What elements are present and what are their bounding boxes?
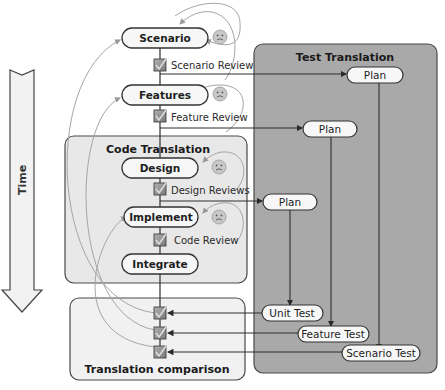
- stage-scenario[interactable]: Scenario: [122, 28, 208, 48]
- process-diagram: Test Translation Code Translation Transl…: [0, 0, 445, 390]
- code-translation-title: Code Translation: [106, 143, 210, 156]
- review-scenario: Scenario Review: [154, 59, 253, 71]
- stage-design[interactable]: Design: [122, 158, 198, 178]
- scenario-test[interactable]: Scenario Test: [342, 345, 420, 361]
- svg-text:Design: Design: [140, 162, 181, 174]
- compare-feature: [154, 327, 166, 339]
- svg-text:Scenario: Scenario: [139, 32, 190, 44]
- sad-face-icon: [212, 160, 226, 174]
- stage-implement[interactable]: Implement: [124, 207, 198, 227]
- plan-scenario[interactable]: Plan: [347, 67, 403, 83]
- svg-text:Scenario Test: Scenario Test: [346, 347, 416, 359]
- svg-text:Feature Review: Feature Review: [171, 112, 248, 123]
- sad-face-icon: [212, 210, 226, 224]
- svg-text:Code Review: Code Review: [174, 235, 238, 246]
- svg-text:Unit Test: Unit Test: [269, 307, 314, 319]
- svg-text:Plan: Plan: [364, 69, 386, 81]
- review-features: Feature Review: [154, 110, 248, 123]
- sad-face-icon: [213, 30, 227, 44]
- feature-test[interactable]: Feature Test: [298, 326, 369, 342]
- svg-text:Plan: Plan: [319, 123, 341, 135]
- stage-features[interactable]: Features: [122, 85, 208, 105]
- time-arrow: Time: [2, 70, 42, 312]
- unit-test[interactable]: Unit Test: [262, 305, 323, 321]
- svg-text:Design Reviews: Design Reviews: [171, 185, 250, 196]
- compare-unit: [154, 307, 166, 319]
- svg-text:Scenario Review: Scenario Review: [171, 60, 253, 71]
- comparison-checks: [154, 307, 166, 358]
- translation-comparison-title: Translation comparison: [85, 363, 230, 376]
- sad-face-icon: [213, 87, 227, 101]
- svg-text:Implement: Implement: [129, 211, 193, 223]
- compare-scenario: [154, 346, 166, 358]
- svg-text:Integrate: Integrate: [132, 258, 187, 270]
- time-label: Time: [16, 165, 29, 195]
- plan-unit[interactable]: Plan: [263, 194, 317, 210]
- svg-text:Plan: Plan: [279, 196, 301, 208]
- svg-text:Feature Test: Feature Test: [301, 328, 365, 340]
- plan-feature[interactable]: Plan: [303, 121, 357, 137]
- test-translation-title: Test Translation: [296, 51, 394, 64]
- svg-text:Features: Features: [139, 89, 191, 101]
- stage-integrate[interactable]: Integrate: [122, 254, 198, 274]
